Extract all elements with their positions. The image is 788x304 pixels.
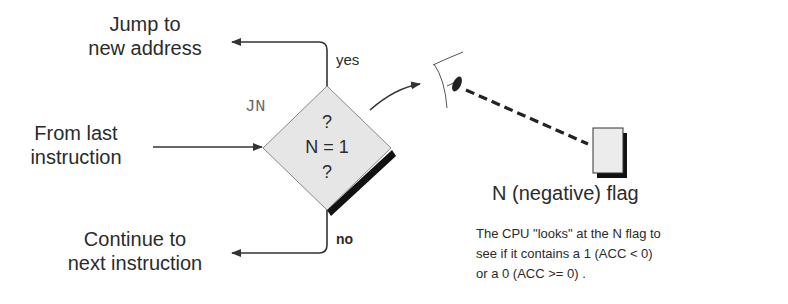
- no-label: no: [336, 230, 353, 248]
- continue-label: Continue to next instruction: [45, 227, 225, 275]
- eye-icon: [433, 52, 464, 108]
- yes-branch-arrow: [232, 42, 327, 86]
- description-line1: The CPU "looks" at the N flag to: [476, 224, 661, 244]
- jump-label: Jump to new address: [60, 12, 230, 60]
- yes-label: yes: [336, 51, 359, 69]
- jump-label-line1: Jump to: [60, 12, 230, 36]
- description: The CPU "looks" at the N flag to see if …: [476, 224, 661, 284]
- description-line2: see if it contains a 1 (ACC < 0): [476, 244, 661, 264]
- decision-condition: N = 1: [287, 137, 367, 158]
- from-label-line1: From last: [16, 121, 136, 145]
- flag-box: [593, 128, 623, 173]
- jump-label-line2: new address: [60, 36, 230, 60]
- description-line3: or a 0 (ACC >= 0) .: [476, 264, 661, 284]
- from-label-line2: instruction: [16, 145, 136, 169]
- look-dashed-line: [466, 90, 588, 144]
- flag-label: N (negative) flag: [492, 181, 639, 205]
- diagram-canvas: Jump to new address From last instructio…: [0, 0, 788, 304]
- instruction-label: JN: [245, 97, 265, 116]
- decision-question-top: ?: [287, 112, 367, 133]
- from-label: From last instruction: [16, 121, 136, 169]
- look-arrow: [370, 84, 420, 110]
- no-branch-arrow: [232, 210, 327, 253]
- decision-question-bottom: ?: [287, 162, 367, 183]
- continue-label-line1: Continue to: [45, 227, 225, 251]
- continue-label-line2: next instruction: [45, 251, 225, 275]
